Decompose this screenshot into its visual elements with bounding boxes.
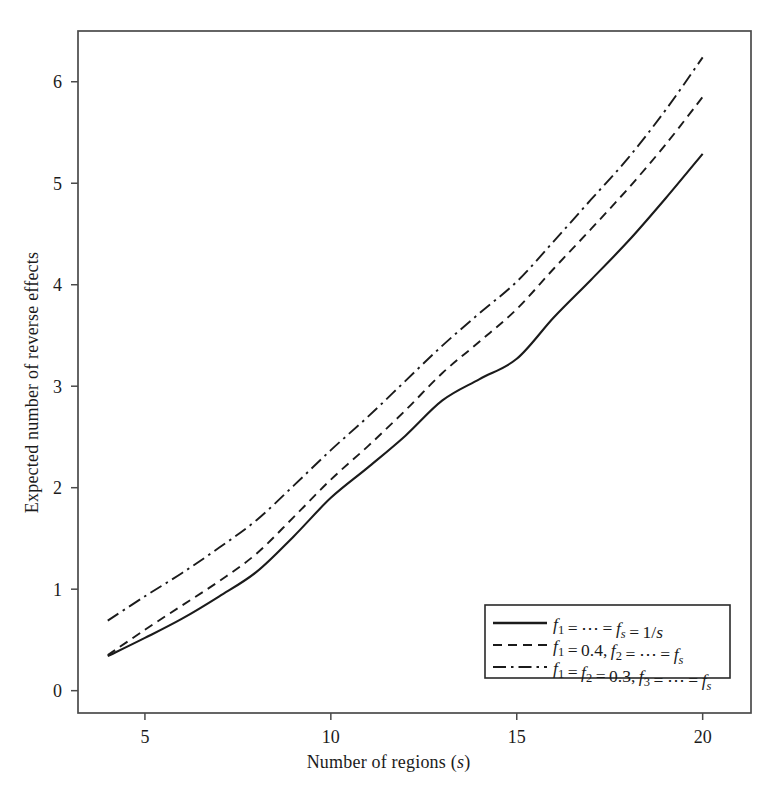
x-tick-label: 5 — [140, 727, 149, 747]
y-axis-title: Expected number of reverse effects — [22, 33, 43, 733]
y-axis-title-text: Expected number of reverse effects — [22, 252, 42, 513]
figure-container: 51015200123456 f1 = ⋯ = fs = 1/sf1 = 0.4… — [0, 0, 777, 800]
x-axis-title-text: Number of regions — [307, 752, 446, 772]
line-chart: 51015200123456 f1 = ⋯ = fs = 1/sf1 = 0.4… — [0, 0, 777, 800]
y-tick-label: 1 — [53, 580, 62, 600]
y-tick-label: 5 — [53, 174, 62, 194]
x-tick-label: 20 — [694, 727, 712, 747]
x-axis-title: Number of regions (s) — [0, 752, 777, 773]
y-tick-label: 4 — [53, 275, 62, 295]
y-tick-label: 2 — [53, 478, 62, 498]
y-tick-label: 0 — [53, 681, 62, 701]
x-tick-label: 10 — [322, 727, 340, 747]
y-tick-label: 3 — [53, 377, 62, 397]
y-tick-label: 6 — [53, 72, 62, 92]
x-tick-label: 15 — [508, 727, 526, 747]
x-axis-title-var: (s) — [446, 752, 470, 772]
